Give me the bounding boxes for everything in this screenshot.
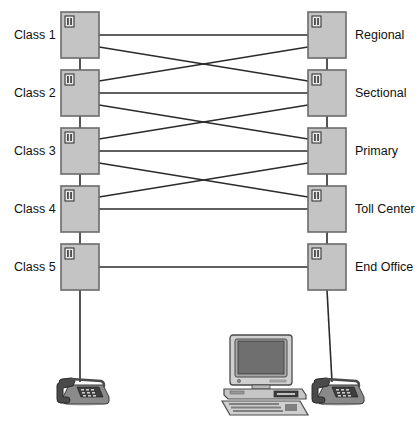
switch-icon [312,132,321,143]
telephone-icon-right [311,378,365,406]
subscriber-drop-lines [80,290,332,382]
left-switch-nodes [61,12,99,290]
label-class-2: Class 2 [14,87,56,100]
switch-icon [65,132,74,143]
label-class-5: Class 5 [14,261,56,274]
switch-icon [65,190,74,201]
drop-line-right-telephone [327,290,332,382]
node-class-1[interactable] [61,12,99,58]
switch-icon [312,190,321,201]
node-class-3[interactable] [61,128,99,174]
switch-icon [312,248,321,259]
node-end-office[interactable] [308,244,346,290]
telephone-icon-left [56,378,110,406]
label-class-4: Class 4 [14,203,56,216]
node-primary[interactable] [308,128,346,174]
node-class-2[interactable] [61,70,99,116]
switch-icon [65,74,74,85]
switch-icon [312,16,321,27]
label-end-office: End Office [355,261,413,274]
switch-icon [65,16,74,27]
label-class-1: Class 1 [14,29,56,42]
label-primary: Primary [355,145,398,158]
node-regional[interactable] [308,12,346,58]
desktop-computer-icon [222,335,308,415]
label-sectional: Sectional [355,87,406,100]
horizontal-links [99,35,308,267]
diagonal-links [99,47,308,197]
node-class-5[interactable] [61,244,99,290]
label-regional: Regional [355,29,404,42]
switch-icon [312,74,321,85]
node-toll-center[interactable] [308,186,346,232]
switch-icon [65,248,74,259]
label-toll-center: Toll Center [355,203,415,216]
network-hierarchy-diagram: Class 1 Class 2 Class 3 Class 4 Class 5 … [0,0,418,421]
node-sectional[interactable] [308,70,346,116]
node-class-4[interactable] [61,186,99,232]
label-class-3: Class 3 [14,145,56,158]
right-switch-nodes [308,12,346,290]
